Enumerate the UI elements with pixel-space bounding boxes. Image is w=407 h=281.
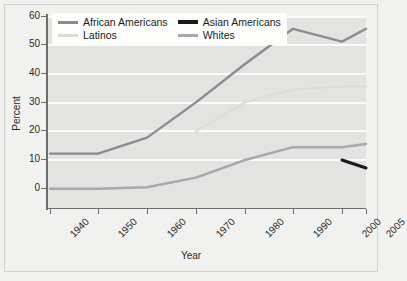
series-line-whites <box>50 144 366 189</box>
legend-swatch-icon-whites <box>178 34 198 37</box>
legend-item-african-americans[interactable]: African Americans <box>58 16 168 28</box>
legend-label-latinos: Latinos <box>83 29 117 41</box>
legend-label-whites: Whites <box>203 29 235 41</box>
legend-swatch-icon-asian-americans <box>178 20 198 24</box>
legend-label-asian-americans: Asian Americans <box>203 16 281 28</box>
series-line-african-americans <box>50 29 366 154</box>
chart-legend: African Americans Asian Americans Latino… <box>52 13 287 45</box>
series-line-latinos <box>196 86 366 131</box>
legend-swatch-icon-african-americans <box>58 21 78 24</box>
legend-swatch-icon-latinos <box>58 34 78 37</box>
legend-item-whites[interactable]: Whites <box>178 29 281 41</box>
legend-item-latinos[interactable]: Latinos <box>58 29 168 41</box>
x-axis-label-2005: 2005 <box>384 216 407 240</box>
legend-item-asian-americans[interactable]: Asian Americans <box>178 16 281 28</box>
series-line-asian-americans <box>342 160 366 168</box>
legend-label-african-americans: African Americans <box>83 16 168 28</box>
